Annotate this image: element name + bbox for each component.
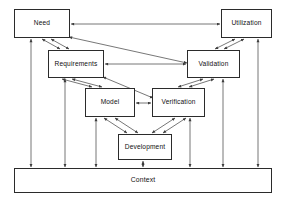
node-need[interactable]: Need (14, 9, 70, 38)
node-requirements[interactable]: Requirements (48, 50, 104, 78)
node-utilization-label: Utilization (231, 20, 261, 27)
node-model[interactable]: Model (85, 88, 135, 117)
node-verification-label: Verification (161, 99, 195, 106)
edge-verification-validation-a (178, 79, 203, 87)
node-validation[interactable]: Validation (187, 50, 240, 78)
edge-need-requirements-b (51, 39, 69, 49)
node-development[interactable]: Development (118, 134, 172, 160)
node-verification[interactable]: Verification (152, 88, 205, 117)
v-model-diagram: Need Utilization Requirements Validation… (0, 0, 287, 203)
edge-need-requirements-a (42, 39, 60, 49)
edge-model-development-a (104, 118, 127, 133)
node-validation-label: Validation (199, 61, 229, 68)
edge-development-verification-b (163, 118, 186, 133)
node-context-label: Context (131, 177, 155, 184)
node-model-label: Model (101, 99, 120, 106)
edge-model-development-b (115, 118, 138, 133)
node-context[interactable]: Context (14, 168, 272, 193)
node-need-label: Need (34, 20, 50, 27)
edge-validation-utilization-a (215, 39, 235, 49)
edge-verification-validation-b (189, 79, 214, 87)
node-development-label: Development (125, 144, 166, 151)
edge-validation-utilization-b (224, 39, 244, 49)
edge-development-verification-a (152, 118, 175, 133)
node-requirements-label: Requirements (55, 61, 98, 68)
node-utilization[interactable]: Utilization (221, 9, 272, 38)
